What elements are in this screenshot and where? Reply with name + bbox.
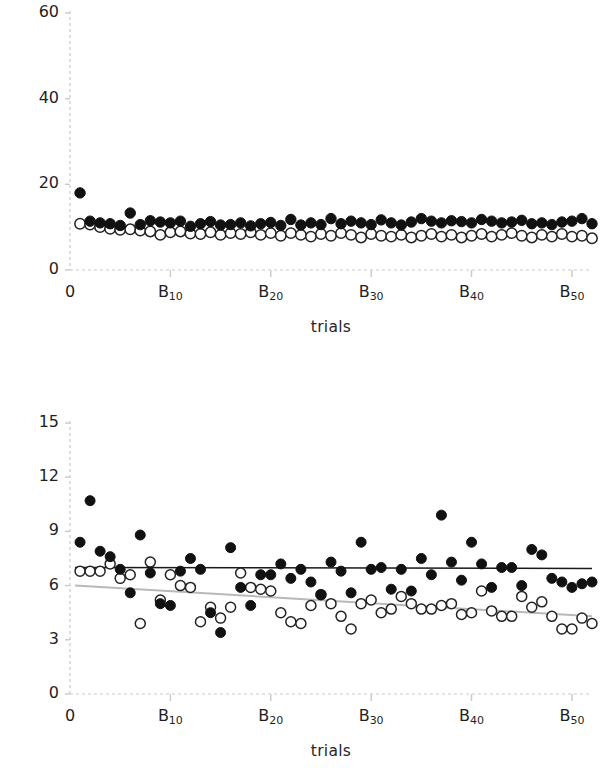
y-tick-label-bottom: 12	[13, 466, 59, 485]
x-tick-label-top: 0	[40, 282, 100, 301]
x-axis-label-bottom: trials	[231, 742, 431, 760]
x-tick-label-bottom: B10	[140, 706, 200, 727]
figure-container: absolute distance (cm) trials 02040600B1…	[0, 0, 614, 776]
x-tick-label-top: B10	[140, 282, 200, 303]
x-axis-label-top: trials	[231, 318, 431, 336]
x-tick-label-bottom: B20	[241, 706, 301, 727]
y-tick-label-bottom: 6	[13, 575, 59, 594]
chart-panel-top: absolute distance (cm) trials 02040600B1…	[0, 0, 614, 388]
x-tick-label-bottom: B30	[341, 706, 401, 727]
x-tick-label-bottom: B40	[442, 706, 502, 727]
y-tick-label-bottom: 15	[13, 412, 59, 431]
x-tick-label-top: B50	[542, 282, 602, 303]
y-tick-label-top: 40	[13, 88, 59, 107]
x-tick-label-top: B40	[442, 282, 502, 303]
y-tick-label-bottom: 3	[13, 629, 59, 648]
y-tick-label-top: 60	[13, 2, 59, 21]
x-tick-label-bottom: B50	[542, 706, 602, 727]
x-tick-label-top: B20	[241, 282, 301, 303]
x-tick-label-top: B30	[341, 282, 401, 303]
y-tick-label-bottom: 9	[13, 520, 59, 539]
x-tick-label-bottom: 0	[40, 706, 100, 725]
y-tick-label-bottom: 0	[13, 683, 59, 702]
y-tick-label-top: 20	[13, 173, 59, 192]
y-tick-label-top: 0	[13, 259, 59, 278]
chart-panel-bottom: absolute distance SD (cm) trials 0369121…	[0, 392, 614, 776]
